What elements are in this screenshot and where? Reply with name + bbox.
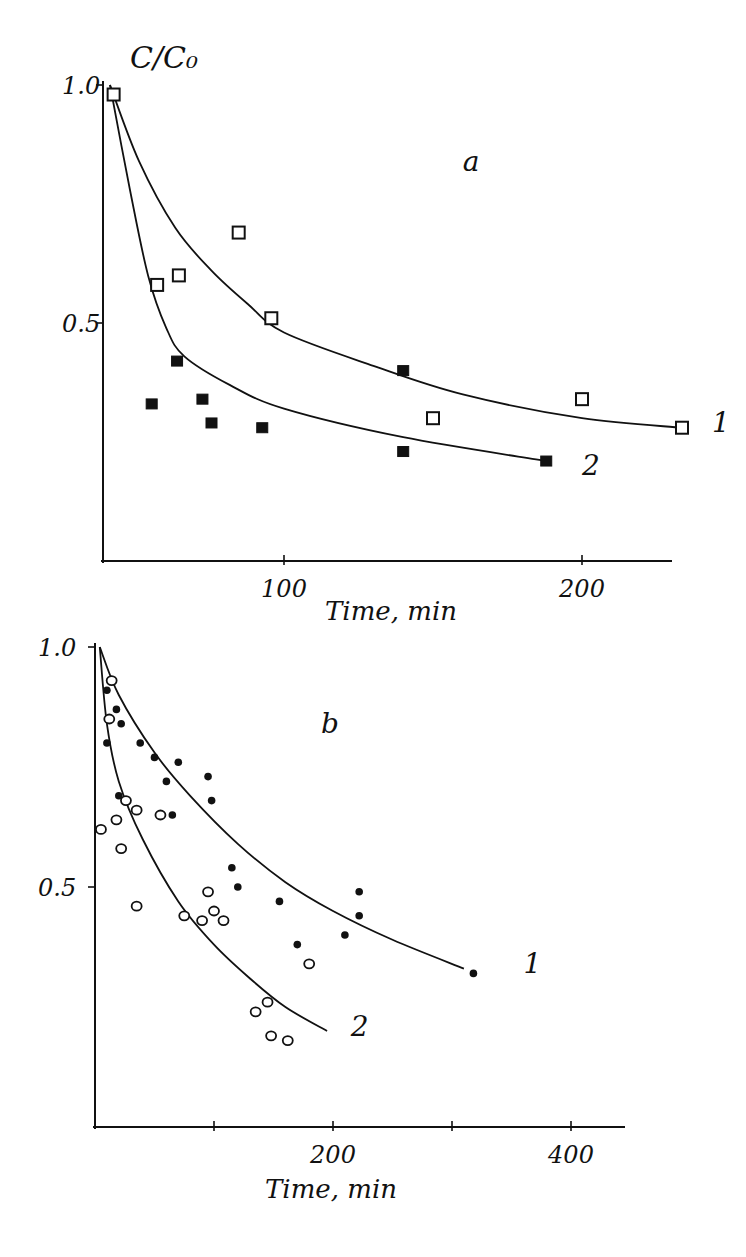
curve-number-label: 2 xyxy=(350,1010,369,1043)
data-point-open-circle xyxy=(179,911,189,920)
data-point-open-circle xyxy=(251,1007,261,1016)
data-point-filled-circle xyxy=(103,739,111,747)
data-point-filled-square xyxy=(398,447,409,457)
data-point-open-circle xyxy=(203,887,213,896)
data-point-open-square xyxy=(233,227,245,239)
data-point-open-square xyxy=(151,279,163,291)
data-point-filled-circle xyxy=(113,706,121,714)
data-point-open-circle xyxy=(96,825,106,834)
data-point-open-square xyxy=(108,89,120,101)
data-point-filled-square xyxy=(172,356,183,366)
fit-curve-series-1 xyxy=(110,85,682,428)
fit-curve-series-1 xyxy=(100,647,464,969)
data-point-open-circle xyxy=(132,806,142,815)
data-point-filled-circle xyxy=(234,883,242,891)
curve-number-label: 2 xyxy=(581,449,600,482)
panel-letter: b xyxy=(321,707,339,740)
data-point-open-circle xyxy=(132,902,142,911)
data-point-filled-square xyxy=(197,394,208,404)
y-tick-label: 1.0 xyxy=(62,72,100,100)
x-tick-label: 100 xyxy=(261,575,307,603)
data-point-open-circle xyxy=(304,959,314,968)
y-tick-label: 0.5 xyxy=(62,310,100,338)
data-point-filled-square xyxy=(541,456,552,466)
data-point-open-circle xyxy=(266,1031,276,1040)
x-tick-label: 200 xyxy=(558,575,605,603)
data-point-open-circle xyxy=(263,998,273,1007)
data-point-filled-circle xyxy=(151,754,159,762)
data-point-filled-square xyxy=(257,423,268,433)
panel-b-xlabel: Time, min xyxy=(265,1174,397,1204)
fit-curve-series-2 xyxy=(100,647,327,1031)
data-point-filled-circle xyxy=(163,778,171,786)
data-point-open-circle xyxy=(121,796,131,805)
data-point-filled-circle xyxy=(341,931,349,939)
data-point-filled-square xyxy=(206,418,217,428)
y-tick-label: 1.0 xyxy=(38,634,76,662)
curve-number-label: 1 xyxy=(712,406,730,439)
data-point-open-square xyxy=(676,422,688,434)
data-point-open-circle xyxy=(197,916,207,925)
data-point-open-circle xyxy=(111,815,121,824)
data-point-open-circle xyxy=(283,1036,293,1045)
data-point-filled-circle xyxy=(355,888,363,896)
panel-b: Time, min 0.51.0200400 b12 xyxy=(38,634,625,1204)
x-tick-label: 200 xyxy=(309,1141,356,1169)
data-point-filled-circle xyxy=(355,912,363,920)
data-point-filled-square xyxy=(398,366,409,376)
data-point-open-circle xyxy=(104,715,114,724)
data-point-open-square xyxy=(173,269,185,281)
data-point-open-circle xyxy=(107,676,117,685)
panel-a: C/C₀ Time, min 0.51.0100200 a12 xyxy=(62,40,730,626)
data-point-open-circle xyxy=(116,844,126,853)
data-point-open-square xyxy=(576,393,588,405)
data-point-filled-circle xyxy=(276,898,284,906)
data-point-filled-circle xyxy=(117,720,125,728)
data-point-filled-circle xyxy=(208,797,216,805)
curve-number-label: 1 xyxy=(523,947,541,980)
data-point-open-square xyxy=(265,312,277,324)
data-point-filled-circle xyxy=(294,941,302,949)
panel-letter: a xyxy=(463,145,480,178)
panel-a-ylabel: C/C₀ xyxy=(130,40,198,75)
panel-a-xlabel: Time, min xyxy=(325,596,457,626)
data-point-filled-circle xyxy=(175,758,183,766)
figure: C/C₀ Time, min 0.51.0100200 a12 Time, mi… xyxy=(0,0,746,1257)
data-point-open-circle xyxy=(209,907,219,916)
data-point-filled-circle xyxy=(136,739,144,747)
data-point-filled-circle xyxy=(204,773,212,781)
data-point-open-circle xyxy=(155,811,165,820)
data-point-filled-square xyxy=(146,399,157,409)
data-point-filled-circle xyxy=(103,686,111,694)
data-point-open-circle xyxy=(219,916,229,925)
y-tick-label: 0.5 xyxy=(38,874,76,902)
data-point-filled-circle xyxy=(228,864,236,872)
data-point-filled-circle xyxy=(169,811,177,819)
data-point-filled-circle xyxy=(470,970,478,978)
data-point-open-square xyxy=(427,412,439,424)
x-tick-label: 400 xyxy=(547,1141,594,1169)
